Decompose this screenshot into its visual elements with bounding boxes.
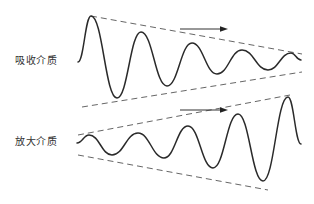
lower-envelope-dashed-line [78,155,268,190]
decaying-wave [78,16,301,98]
absorbing-panel [78,16,302,107]
wave-attenuation-amplification-diagram: 吸收介质 放大介质 [0,0,314,204]
arrowhead-icon [220,26,228,32]
upper-envelope-dashed-line [91,16,302,54]
amplifying-panel [77,95,301,190]
arrowhead-icon [220,107,228,113]
lower-envelope-dashed-line [82,72,302,107]
diagram-canvas [0,0,314,204]
upper-envelope-dashed-line [78,95,290,135]
